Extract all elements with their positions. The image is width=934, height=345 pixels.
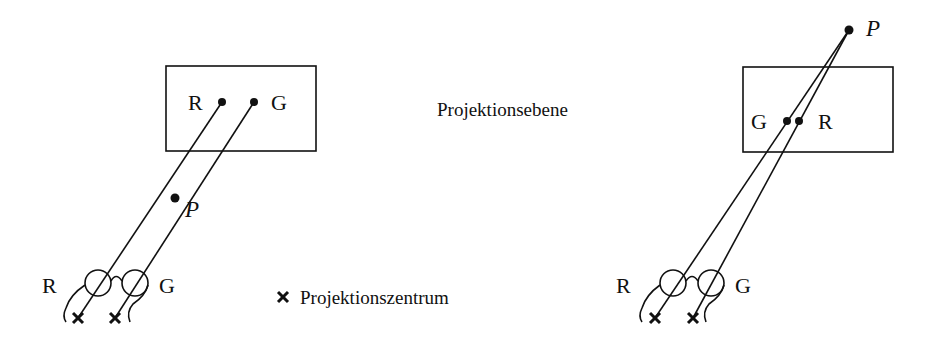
projection-plane-label: Projektionsebene <box>437 99 568 120</box>
eye-r-left <box>85 270 111 296</box>
right-panel: G R P R G <box>616 16 893 323</box>
ray-r-left <box>78 102 222 318</box>
stereo-projection-diagram: R G P R G Projektionsebene <box>0 0 934 345</box>
ray-g-right <box>693 30 849 318</box>
eye-label-g-right: G <box>735 273 751 298</box>
point-label-p-right: P <box>865 16 880 41</box>
point-label-p-left: P <box>184 197 199 222</box>
glasses-bridge-right <box>686 277 698 282</box>
plane-label-g-left: G <box>271 90 287 115</box>
point-p-left <box>171 194 180 203</box>
ray-r-right <box>655 30 849 318</box>
plane-label-g-right: G <box>751 109 767 134</box>
projection-center-label: Projektionszentrum <box>300 287 449 308</box>
glasses-temple-g-left <box>129 285 148 322</box>
eye-label-g-left: G <box>159 273 175 298</box>
projected-point-g-right <box>783 117 791 125</box>
eye-label-r-left: R <box>42 273 57 298</box>
glasses-bridge-left <box>111 277 122 282</box>
eye-label-r-right: R <box>616 273 631 298</box>
projected-point-r-right <box>795 117 803 125</box>
projection-center-icon-g-left <box>110 313 120 323</box>
projection-center-legend: Projektionszentrum <box>278 287 449 308</box>
projection-center-icon-g-right <box>688 313 698 323</box>
projection-center-icon-r-right <box>650 313 660 323</box>
plane-label-r-left: R <box>188 90 203 115</box>
plane-label-r-right: R <box>818 109 833 134</box>
point-p-right <box>845 26 854 35</box>
projection-center-icon-legend <box>278 292 288 302</box>
left-panel: R G P R G <box>42 66 316 323</box>
projection-center-icon-r-left <box>73 313 83 323</box>
